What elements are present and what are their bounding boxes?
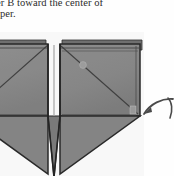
caption-line-2: the paper. [0, 8, 16, 19]
scanned-page-fragment: corner B toward the center of the paper. [0, 0, 174, 176]
origami-diagram [0, 32, 144, 176]
curved-fold-arrow [142, 94, 174, 128]
caption-line-1: corner B toward the center of [0, 0, 103, 8]
figure-layers [0, 32, 144, 176]
arrow-curve-tail [168, 98, 172, 118]
paper-grain-overlay [0, 32, 144, 176]
instruction-caption: corner B toward the center of the paper. [0, 0, 174, 24]
